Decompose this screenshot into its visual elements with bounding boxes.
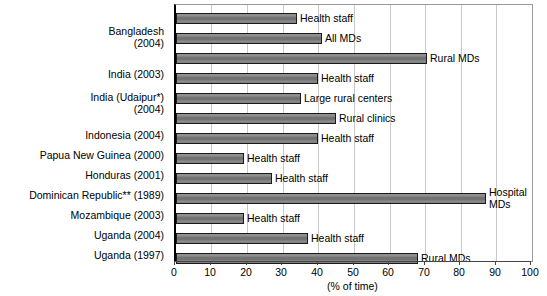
- x-axis-title: (% of time): [174, 280, 531, 292]
- bar-bangladesh-rural-mds: [176, 53, 427, 64]
- x-tick-mark-60: [388, 261, 389, 265]
- x-tick-mark-40: [317, 261, 318, 265]
- x-tick-mark-100: [530, 261, 531, 265]
- bar-mozambique-health-staff: [176, 213, 244, 224]
- gridline-60: [390, 5, 391, 261]
- y-label-honduras-2001: Honduras (2001): [85, 170, 164, 182]
- y-label-indonesia-2004: Indonesia (2004): [85, 130, 164, 142]
- bar-value-label-papua-new-guinea-health-staff: Health staff: [247, 153, 300, 165]
- bar-bangladesh-health-staff: [176, 13, 297, 24]
- bar-dominican-republic-hospital-mds: [176, 193, 486, 204]
- bar-honduras-health-staff: [176, 173, 272, 184]
- x-tick-label-0: 0: [157, 266, 191, 278]
- bar-uganda-1997-rural-mds: [176, 253, 418, 264]
- y-label-india-2003: India (2003): [108, 69, 164, 81]
- bar-value-label-bangladesh-rural-mds: Rural MDs: [430, 53, 480, 65]
- x-tick-label-40: 40: [300, 266, 334, 278]
- bar-bangladesh-all-mds: [176, 33, 322, 44]
- x-tick-mark-10: [210, 261, 211, 265]
- bar-india-2003-health-staff: [176, 73, 318, 84]
- y-label-bangladesh-line1: Bangladesh: [109, 26, 164, 38]
- bar-udaipur-rural-clinics: [176, 113, 336, 124]
- y-label-bangladesh-line2: (2004): [134, 38, 164, 50]
- bar-value-label-udaipur-large-rural-centers: Large rural centers: [304, 93, 392, 105]
- bar-uganda-2004-health-staff: [176, 233, 308, 244]
- x-tick-mark-70: [424, 261, 425, 265]
- x-tick-mark-50: [353, 261, 354, 265]
- bar-papua-new-guinea-health-staff: [176, 153, 244, 164]
- plot-area: Health staff All MDs Rural MDs Health st…: [174, 4, 533, 262]
- bar-value-label-indonesia-health-staff: Health staff: [321, 133, 374, 145]
- bar-value-label-bangladesh-health-staff: Health staff: [300, 13, 353, 25]
- bar-value-label-uganda-2004-health-staff: Health staff: [311, 233, 364, 245]
- y-label-india-udaipur-line2: (2004): [134, 104, 164, 116]
- x-tick-label-30: 30: [264, 266, 298, 278]
- bar-value-label-honduras-health-staff: Health staff: [275, 173, 328, 185]
- x-tick-label-70: 70: [407, 266, 441, 278]
- x-tick-mark-90: [495, 261, 496, 265]
- x-tick-label-90: 90: [478, 266, 512, 278]
- absenteeism-bar-chart: Bangladesh (2004) India (2003) India (Ud…: [0, 0, 547, 296]
- gridline-90: [496, 5, 497, 261]
- y-label-uganda-2004: Uganda (2004): [94, 230, 164, 242]
- bar-value-label-mozambique-health-staff: Health staff: [247, 213, 300, 225]
- x-tick-label-80: 80: [442, 266, 476, 278]
- y-label-dominican-republic-1989: Dominican Republic** (1989): [29, 190, 164, 202]
- x-tick-label-60: 60: [371, 266, 405, 278]
- x-tick-label-10: 10: [193, 266, 227, 278]
- y-axis-category-labels: Bangladesh (2004) India (2003) India (Ud…: [0, 4, 168, 260]
- y-label-india-udaipur-line1: India (Udaipur*): [90, 92, 164, 104]
- bar-indonesia-health-staff: [176, 133, 318, 144]
- y-label-papua-new-guinea-2000: Papua New Guinea (2000): [40, 150, 164, 162]
- y-label-uganda-1997: Uganda (1997): [94, 250, 164, 262]
- x-tick-mark-30: [281, 261, 282, 265]
- x-tick-mark-80: [459, 261, 460, 265]
- bar-value-label-dominican-republic-hospital-mds: Hospital MDs: [489, 187, 543, 210]
- x-tick-label-100: 100: [513, 266, 547, 278]
- gridline-70: [425, 5, 426, 261]
- bar-value-label-bangladesh-all-mds: All MDs: [325, 33, 361, 45]
- bar-value-label-india-2003-health-staff: Health staff: [321, 73, 374, 85]
- x-tick-label-50: 50: [336, 266, 370, 278]
- x-tick-mark-20: [246, 261, 247, 265]
- gridline-80: [461, 5, 462, 261]
- x-tick-mark-0: [174, 261, 175, 265]
- bar-value-label-uganda-1997-rural-mds: Rural MDs: [421, 253, 471, 265]
- y-label-mozambique-2003: Mozambique (2003): [71, 210, 164, 222]
- x-tick-label-20: 20: [229, 266, 263, 278]
- bar-udaipur-large-rural-centers: [176, 93, 301, 104]
- bar-value-label-udaipur-rural-clinics: Rural clinics: [339, 113, 396, 125]
